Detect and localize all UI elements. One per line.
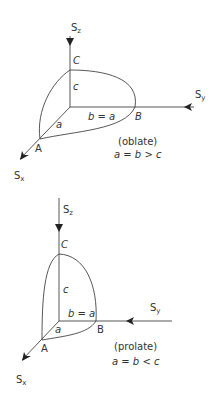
point-a-label: A <box>35 143 42 154</box>
ellipsoid-diagram: Sz Sy Sx C B A c b = a a (oblate) a = b … <box>0 0 214 402</box>
prolate-relation: a = b < c <box>112 356 160 367</box>
point-a-label: A <box>41 343 48 354</box>
oblate-relation: a = b > c <box>114 149 162 160</box>
sz-label: Sz <box>63 204 73 217</box>
oblate-figure: Sz Sy Sx C B A c b = a a (oblate) a = b … <box>14 22 206 183</box>
curve-c-b <box>70 70 135 107</box>
segment-a-label: a <box>55 324 61 335</box>
segment-c-label: c <box>73 81 79 92</box>
point-c-label: C <box>61 239 68 250</box>
sx-label: Sx <box>14 170 25 183</box>
sy-label: Sy <box>195 89 206 102</box>
segment-a-label: a <box>56 119 62 130</box>
x-arrow-icon <box>20 151 29 160</box>
point-b-label: B <box>135 111 142 122</box>
sx-label: Sx <box>16 374 27 387</box>
z-arrow-icon <box>66 38 74 46</box>
segment-c-label: c <box>63 284 69 295</box>
x-arrow-icon <box>22 352 31 361</box>
x-axis <box>22 321 59 360</box>
curve-c-a <box>39 70 70 139</box>
point-c-label: C <box>73 55 80 66</box>
z-arrow-icon <box>55 224 63 232</box>
segment-b-label: b = a <box>88 111 115 122</box>
segment-b-label: b = a <box>68 308 95 319</box>
sz-label: Sz <box>71 22 81 35</box>
point-b-label: B <box>97 324 104 335</box>
sy-label: Sy <box>150 302 161 315</box>
x-axis <box>20 107 70 159</box>
prolate-figure: Sz Sy Sx C B A c b = a a (prolate) a = b… <box>16 198 172 387</box>
oblate-caption: (oblate) <box>118 136 157 147</box>
prolate-caption: (prolate) <box>114 341 157 352</box>
